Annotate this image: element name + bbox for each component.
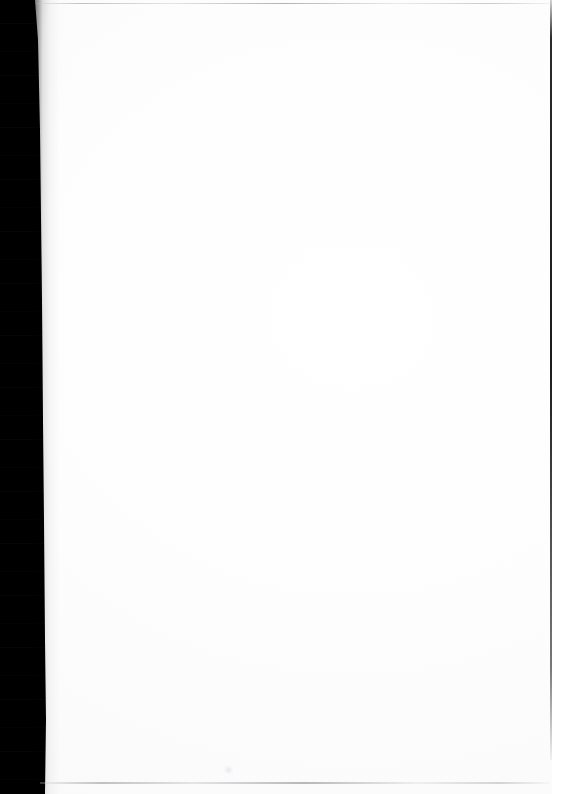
page-content-region xyxy=(64,40,534,750)
scanned-page xyxy=(0,0,562,794)
